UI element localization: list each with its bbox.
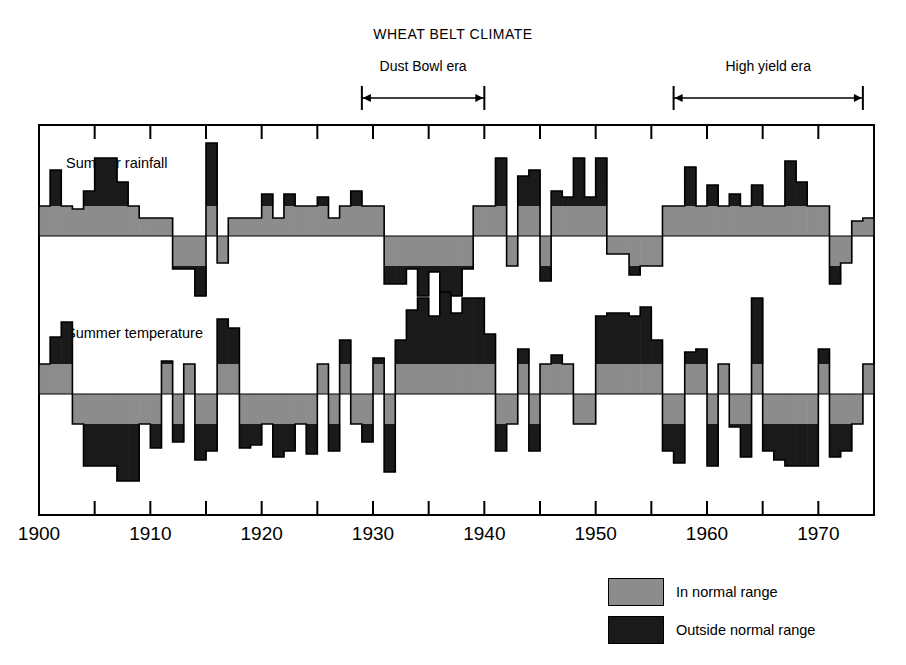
- x-tick-label-1950: 1950: [556, 523, 636, 545]
- legend-label-outside: Outside normal range: [676, 622, 815, 638]
- legend-item-normal: In normal range: [608, 578, 778, 606]
- x-tick-label-1920: 1920: [222, 523, 302, 545]
- x-tick-label-1940: 1940: [444, 523, 524, 545]
- x-tick-label-1900: 1900: [0, 523, 79, 545]
- x-tick-label-1960: 1960: [667, 523, 747, 545]
- legend-swatch-outside: [608, 616, 664, 644]
- x-tick-label-1930: 1930: [333, 523, 413, 545]
- x-tick-label-1910: 1910: [110, 523, 190, 545]
- legend-item-outside: Outside normal range: [608, 616, 815, 644]
- x-tick-label-1970: 1970: [778, 523, 858, 545]
- era-bracket-dust-bowl: [362, 86, 484, 110]
- plot-area: [0, 0, 906, 665]
- wheat-belt-climate-chart: WHEAT BELT CLIMATE Dust Bowl era High yi…: [0, 0, 906, 665]
- era-bracket-high-yield: [674, 86, 863, 110]
- legend-swatch-normal: [608, 578, 664, 606]
- legend-label-normal: In normal range: [676, 584, 778, 600]
